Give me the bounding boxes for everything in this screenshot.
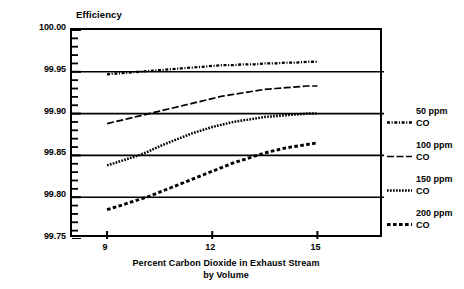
legend-label: 200 ppmCO xyxy=(416,208,453,231)
legend-label-unit: CO xyxy=(416,220,453,232)
legend-label: 50 ppmCO xyxy=(416,106,448,129)
legend-label-value: 200 ppm xyxy=(416,208,453,218)
legend-label-unit: CO xyxy=(416,118,448,130)
chart-page: Efficiency 99.7599.8099.8599.9099.95100.… xyxy=(0,0,464,289)
x-tick-label: 15 xyxy=(310,242,320,252)
legend-line-swatch xyxy=(387,179,412,184)
x-tick-label: 9 xyxy=(103,242,108,252)
legend-line-swatch xyxy=(387,111,412,116)
x-tick-label: 12 xyxy=(205,242,215,252)
legend-label-value: 100 ppm xyxy=(416,140,453,150)
legend-line-swatch xyxy=(387,145,412,150)
legend-entry: 50 ppmCO xyxy=(387,108,464,133)
legend-entry: 100 ppmCO xyxy=(387,142,464,167)
legend-label-unit: CO xyxy=(416,152,453,164)
legend-label: 150 ppmCO xyxy=(416,174,453,197)
legend-line-swatch xyxy=(387,213,412,218)
chart-legend: 50 ppmCO100 ppmCO150 ppmCO200 ppmCO xyxy=(387,108,464,244)
legend-label-unit: CO xyxy=(416,186,453,198)
x-axis-title-line2: by Volume xyxy=(70,270,382,282)
x-axis-title: Percent Carbon Dioxide in Exhaust Stream… xyxy=(70,258,382,281)
legend-entry: 200 ppmCO xyxy=(387,210,464,235)
legend-label-value: 50 ppm xyxy=(416,106,448,116)
x-axis-title-line1: Percent Carbon Dioxide in Exhaust Stream xyxy=(132,258,319,268)
legend-entry: 150 ppmCO xyxy=(387,176,464,201)
legend-label: 100 ppmCO xyxy=(416,140,453,163)
legend-label-value: 150 ppm xyxy=(416,174,453,184)
